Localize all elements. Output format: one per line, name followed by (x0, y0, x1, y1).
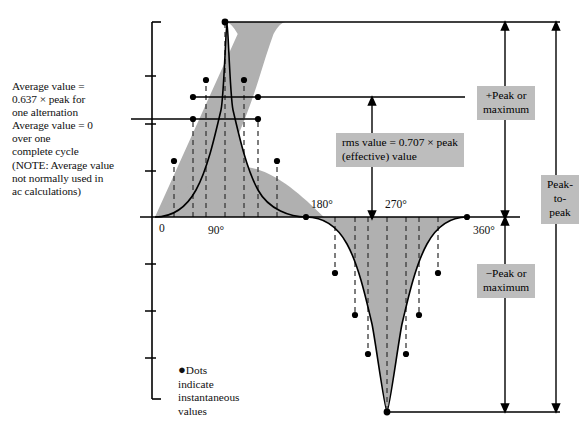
sine-wave-figure (0, 0, 588, 432)
minus-peak-callout: −Peak or maximum (477, 264, 535, 298)
minus-peak-dimension-arrow (501, 217, 508, 412)
plus-peak-callout: +Peak or maximum (477, 86, 535, 120)
axis-label-90: 90° (208, 224, 224, 237)
plus-peak-dimension-arrow (501, 22, 508, 219)
axis-label-180: 180° (311, 198, 333, 211)
dots-legend: ●Dots indicate instantaneous values (178, 363, 240, 418)
dots-legend-text: Dots indicate instantaneous values (178, 364, 240, 417)
dot-marker-icon: ● (178, 362, 186, 377)
axis-label-360: 360° (473, 224, 495, 237)
axis-label-0: 0 (159, 222, 165, 235)
peak-to-peak-callout: Peak- to- peak (541, 175, 579, 224)
rms-value-callout: rms value = 0.707 × peak (effective) val… (336, 133, 464, 167)
axis-label-270: 270° (385, 198, 407, 211)
average-value-note: Average value = 0.637 × peak for one alt… (12, 80, 114, 198)
